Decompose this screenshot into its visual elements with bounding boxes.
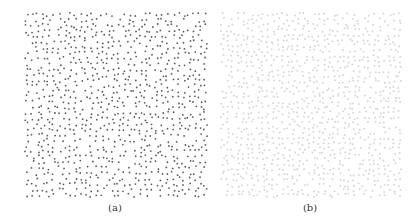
sample-point xyxy=(395,49,397,51)
sample-point xyxy=(317,143,319,145)
sample-point xyxy=(319,183,321,185)
sample-point xyxy=(127,52,129,54)
sample-point xyxy=(37,31,39,33)
sample-point xyxy=(311,36,313,38)
sample-point xyxy=(56,106,58,108)
sample-point xyxy=(92,36,94,38)
sample-point xyxy=(338,142,340,144)
sample-point xyxy=(146,62,148,64)
sample-point xyxy=(69,75,71,77)
sample-point xyxy=(367,40,369,42)
sample-point xyxy=(252,106,254,108)
sample-point xyxy=(384,173,386,175)
sample-point xyxy=(243,96,245,98)
sample-point xyxy=(42,36,44,38)
sample-point xyxy=(30,151,32,153)
sample-point xyxy=(75,154,77,156)
sample-point xyxy=(102,51,104,53)
sample-point xyxy=(203,185,205,187)
sample-point xyxy=(238,193,240,195)
sample-point xyxy=(273,108,275,110)
sample-point xyxy=(168,60,170,62)
sample-point xyxy=(308,103,310,105)
sample-point xyxy=(31,134,33,136)
sample-point xyxy=(333,126,335,128)
sample-point xyxy=(273,33,275,35)
sample-point xyxy=(365,189,367,191)
sample-point xyxy=(197,12,199,14)
sample-point xyxy=(53,69,55,71)
sample-point xyxy=(86,120,88,122)
sample-point xyxy=(49,121,51,123)
sample-point xyxy=(42,150,44,152)
sample-point xyxy=(65,147,67,149)
sample-point xyxy=(138,117,140,119)
sample-point xyxy=(44,29,46,31)
sample-point xyxy=(76,178,78,180)
sample-point xyxy=(108,34,110,36)
sample-point xyxy=(262,139,264,141)
sample-point xyxy=(68,43,70,45)
sample-point xyxy=(347,35,349,37)
sample-point xyxy=(246,38,248,40)
sample-point xyxy=(167,101,169,103)
sample-point xyxy=(111,96,113,98)
sample-point xyxy=(47,172,49,174)
sample-point xyxy=(181,125,183,127)
sample-point xyxy=(173,124,175,126)
sample-point xyxy=(383,191,385,193)
sample-point xyxy=(46,48,48,50)
sample-point xyxy=(36,13,38,15)
sample-point xyxy=(146,31,148,33)
sample-point xyxy=(31,167,33,169)
sample-point xyxy=(129,112,131,114)
sample-point xyxy=(237,17,239,19)
sample-point xyxy=(38,111,40,113)
sample-point xyxy=(92,75,94,77)
sample-point xyxy=(253,138,255,140)
sample-point xyxy=(257,79,259,81)
sample-point xyxy=(276,92,278,94)
sample-point xyxy=(316,87,318,89)
sample-point xyxy=(378,65,380,67)
sample-point xyxy=(124,185,126,187)
sample-point xyxy=(173,194,175,196)
sample-point xyxy=(173,34,175,36)
sample-point xyxy=(36,36,38,38)
sample-point xyxy=(222,124,224,126)
sample-point xyxy=(271,163,273,165)
sample-point xyxy=(395,66,397,68)
sample-point xyxy=(144,149,146,151)
sample-point xyxy=(163,133,165,135)
sample-point xyxy=(150,189,152,191)
sample-point xyxy=(398,71,400,73)
sample-point xyxy=(281,106,283,108)
sample-point xyxy=(38,154,40,156)
sample-point xyxy=(379,116,381,118)
sample-point xyxy=(331,101,333,103)
sample-point xyxy=(353,147,355,149)
sample-point xyxy=(174,30,176,32)
sample-point xyxy=(241,86,243,88)
sample-point xyxy=(273,87,275,89)
sample-point xyxy=(388,55,390,57)
sample-point xyxy=(334,157,336,159)
sample-point xyxy=(307,85,309,87)
sample-point xyxy=(388,165,390,167)
sample-point xyxy=(393,20,395,22)
sample-point xyxy=(251,133,253,135)
sample-point xyxy=(47,75,49,77)
sample-point xyxy=(328,66,330,68)
sample-point xyxy=(367,121,369,123)
sample-point xyxy=(199,26,201,28)
sample-point xyxy=(91,155,93,157)
sample-point xyxy=(37,57,39,59)
sample-point xyxy=(80,100,82,102)
sample-point xyxy=(303,116,305,118)
sample-point xyxy=(257,14,259,16)
sample-point xyxy=(309,77,311,79)
sample-point xyxy=(25,20,27,22)
sample-point xyxy=(90,151,92,153)
sample-point xyxy=(114,146,116,148)
sample-point xyxy=(400,80,402,82)
